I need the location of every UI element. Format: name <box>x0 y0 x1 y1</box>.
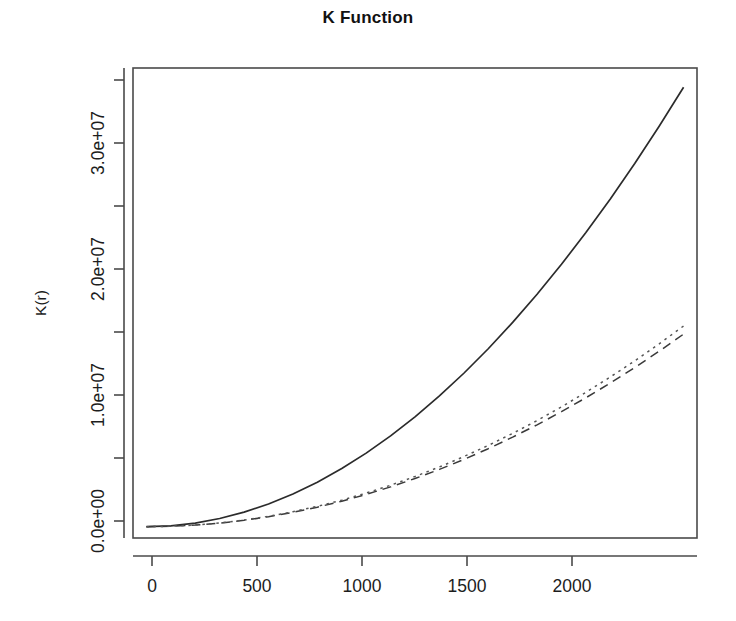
plot-frame <box>133 68 697 538</box>
x-tick-label-2000: 2000 <box>553 576 592 596</box>
series-line-Kobs <box>146 87 683 526</box>
x-axis: 0 500 1000 1500 2000 <box>133 556 697 596</box>
y-axis-ticks <box>114 80 124 521</box>
data-series-layer <box>146 87 683 526</box>
x-axis-ticks <box>152 556 572 566</box>
series-line-Ktheo-dashed <box>146 334 683 527</box>
y-tick-label-2e07: 2.0e+07 <box>88 237 108 301</box>
chart-figure: K Function 0 500 1000 1500 2000 <box>0 0 736 621</box>
x-tick-label-500: 500 <box>242 576 271 596</box>
y-tick-label-3e07: 3.0e+07 <box>88 111 108 175</box>
series-line-Ktheo-dotted <box>146 326 683 527</box>
x-tick-label-0: 0 <box>147 576 157 596</box>
x-tick-label-1000: 1000 <box>343 576 382 596</box>
y-tick-label-0: 0.0e+00 <box>88 489 108 553</box>
y-axis: 0.0e+00 1.0e+07 2.0e+07 3.0e+07 K(r) <box>32 68 124 553</box>
x-tick-label-1500: 1500 <box>448 576 487 596</box>
y-axis-label: K(r) <box>32 290 49 316</box>
k-function-plot: 0 500 1000 1500 2000 0.0e+00 1.0 <box>0 0 736 621</box>
y-tick-label-1e07: 1.0e+07 <box>88 363 108 427</box>
